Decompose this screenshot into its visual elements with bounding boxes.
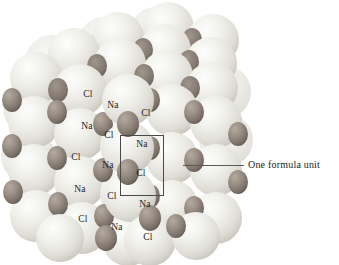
ion-label-cl: Cl [78, 215, 87, 225]
ion-label-na: Na [139, 200, 150, 210]
unit-cell-highlight-box [120, 135, 164, 196]
ion-label-cl: Cl [143, 233, 152, 243]
ion-label-na: Na [102, 161, 113, 171]
ion-label-na: Na [107, 101, 118, 111]
ion-label-na: Na [111, 223, 122, 233]
crystal-lattice-illustration [0, 0, 339, 265]
unit-cell-leader-line [183, 165, 244, 166]
nacl-crystal-figure: Cl Na Cl Na Cl Na Cl Na Cl Na Cl Na Cl N… [0, 0, 339, 265]
ion-label-cl: Cl [104, 131, 113, 141]
ion-label-na: Na [74, 185, 85, 195]
ion-label-cl: Cl [107, 192, 116, 202]
ion-label-na: Na [81, 122, 92, 132]
ion-label-cl: Cl [141, 109, 150, 119]
one-formula-unit-label: One formula unit [248, 159, 320, 170]
ion-label-cl: Cl [71, 153, 80, 163]
ion-label-cl: Cl [83, 90, 92, 100]
